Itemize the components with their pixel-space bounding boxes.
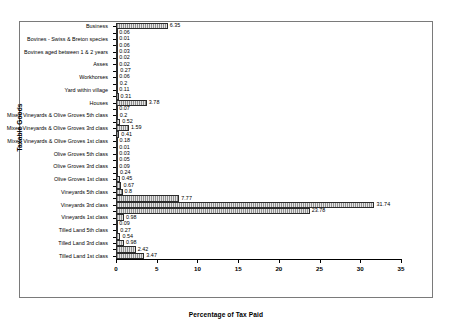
bar-value-label: 31.74 <box>376 201 390 207</box>
x-tick-label: 0 <box>114 265 117 272</box>
category-label: Yard within village <box>0 87 112 93</box>
category-label: Tilled Land 1st class <box>0 253 112 259</box>
bar-value-label: 0.09 <box>119 220 130 226</box>
x-tick-mark <box>279 259 280 263</box>
x-tick-label: 5 <box>155 265 158 272</box>
bar-value-label: 0.27 <box>120 67 131 73</box>
category-label: Workhorses <box>0 74 112 80</box>
bar-value-label: 0.06 <box>119 42 130 48</box>
bar-value-label: 1.59 <box>131 124 142 130</box>
x-tick-label: 15 <box>235 265 242 272</box>
category-label: Tilled Land 5th class <box>0 227 112 233</box>
bar-value-label: 0.2 <box>120 80 128 86</box>
category-label: Houses <box>0 100 112 106</box>
category-label: Mixed Vineyards & Olive Groves 5th class <box>0 112 112 118</box>
x-tick-label: 25 <box>316 265 323 272</box>
category-label: Vineyards 5th class <box>0 189 112 195</box>
category-label: Vineyards 3rd class <box>0 202 112 208</box>
x-tick-mark <box>320 259 321 263</box>
x-tick-label: 20 <box>275 265 282 272</box>
category-axis-labels: BusinessBovines - Swiss & Breton species… <box>0 0 112 324</box>
bar-value-label: 0.8 <box>125 188 133 194</box>
bar-value-label: 0.07 <box>119 105 130 111</box>
bar-value-label: 0.18 <box>119 137 130 143</box>
bar-value-label: 0.03 <box>119 150 130 156</box>
bar[interactable] <box>116 253 144 259</box>
bar-value-label: 0.11 <box>119 86 129 92</box>
bar-value-label: 0.01 <box>119 144 130 150</box>
category-label: Asses <box>0 61 112 67</box>
bar-value-label: 3.47 <box>146 252 157 258</box>
bar-value-label: 2.42 <box>138 246 149 252</box>
x-tick-mark <box>116 259 117 263</box>
bar-value-label: 0.31 <box>121 93 132 99</box>
category-label: Olive Groves 3rd class <box>0 163 112 169</box>
x-tick-mark <box>401 259 402 263</box>
bar-value-label: 0.54 <box>122 233 133 239</box>
bar-value-label: 0.05 <box>119 156 130 162</box>
x-tick-mark <box>157 259 158 263</box>
category-label: Tilled Land 3rd class <box>0 240 112 246</box>
bar-value-label: 0.52 <box>122 118 133 124</box>
bar-value-label: 0.09 <box>119 163 130 169</box>
value-axis-line <box>116 259 402 260</box>
x-tick-label: 35 <box>398 265 405 272</box>
bar-value-label: 0.02 <box>119 54 130 60</box>
bar-value-label: 0.41 <box>121 131 132 137</box>
x-axis-title: Percentage of Tax Paid <box>0 311 452 318</box>
bar-chart-figure: Taxable Goods BusinessBovines - Swiss & … <box>0 0 452 324</box>
category-label: Mixed Vineyards & Olive Groves 3rd class <box>0 125 112 131</box>
x-tick-label: 10 <box>194 265 201 272</box>
bar-value-label: 23.78 <box>312 207 326 213</box>
bar-value-label: 0.06 <box>119 73 130 79</box>
category-label: Business <box>0 23 112 29</box>
x-tick-mark <box>238 259 239 263</box>
category-label: Bovines - Swiss & Breton species <box>0 36 112 42</box>
bar-value-label: 0.98 <box>126 239 137 245</box>
plot-area: 6.350.060.010.060.030.020.020.270.060.20… <box>116 23 401 259</box>
x-tick-mark <box>360 259 361 263</box>
category-label: Olive Groves 1st class <box>0 176 112 182</box>
bar-value-label: 0.24 <box>120 169 131 175</box>
bar-value-label: 0.03 <box>119 48 130 54</box>
bar-value-label: 6.35 <box>170 22 181 28</box>
bar-value-label: 0.02 <box>119 61 130 67</box>
bar-value-label: 0.98 <box>126 214 137 220</box>
bar-value-label: 0.01 <box>119 35 130 41</box>
bar-value-label: 0.06 <box>119 29 130 35</box>
bar-row[interactable]: 3.47 <box>116 253 401 259</box>
category-label: Mixed Vineyards & Olive Groves 1st class <box>0 138 112 144</box>
x-tick-label: 30 <box>357 265 364 272</box>
bar-value-label: 0.2 <box>120 112 128 118</box>
bar-value-label: 7.77 <box>181 195 192 201</box>
bar-value-label: 0.67 <box>123 182 134 188</box>
bar-value-label: 0.27 <box>120 227 131 233</box>
bar-value-label: 0.45 <box>122 175 133 181</box>
x-tick-mark <box>197 259 198 263</box>
bar-value-label: 3.78 <box>149 99 160 105</box>
category-label: Olive Groves 5th class <box>0 151 112 157</box>
category-label: Bovines aged between 1 & 2 years <box>0 49 112 55</box>
category-label: Vineyards 1st class <box>0 214 112 220</box>
